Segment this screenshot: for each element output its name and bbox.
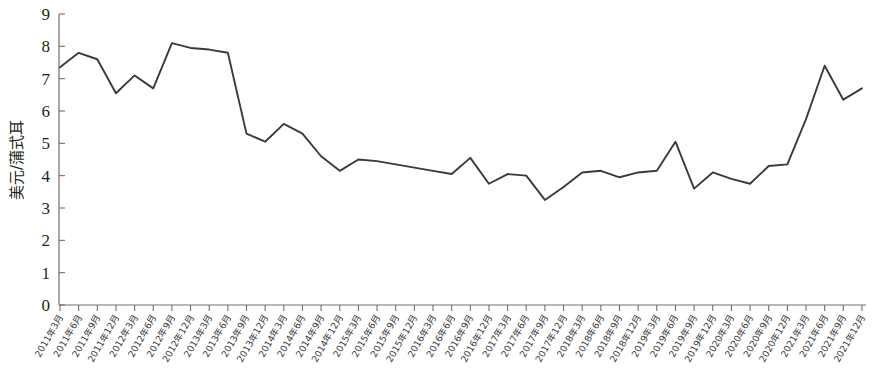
- y-tick-label: 3: [42, 199, 51, 218]
- line-chart: 美元/蒲式耳 0123456789 2011年3月2011年6月2011年9月2…: [0, 0, 877, 381]
- y-axis-title-group: 美元/蒲式耳: [8, 120, 26, 200]
- x-axis-ticks: 2011年3月2011年6月2011年9月2011年12月2012年3月2012…: [32, 305, 867, 364]
- y-tick-label: 0: [42, 296, 51, 315]
- y-tick-label: 1: [42, 264, 51, 283]
- y-tick-label: 9: [42, 5, 51, 24]
- series-line-path: [60, 43, 862, 200]
- y-tick-label: 2: [42, 231, 51, 250]
- chart-container: 美元/蒲式耳 0123456789 2011年3月2011年6月2011年9月2…: [0, 0, 877, 381]
- axes: [59, 14, 866, 305]
- y-tick-label: 6: [42, 102, 51, 121]
- y-axis-ticks: 0123456789: [42, 5, 66, 315]
- y-tick-label: 7: [42, 70, 51, 89]
- y-tick-label: 5: [42, 134, 51, 153]
- y-tick-label: 8: [42, 37, 51, 56]
- y-tick-label: 4: [42, 167, 51, 186]
- y-axis-title: 美元/蒲式耳: [8, 120, 26, 200]
- data-series: [60, 43, 862, 200]
